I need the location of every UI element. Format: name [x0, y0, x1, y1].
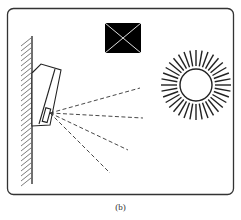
sun-icon: [161, 50, 231, 120]
figure-caption: (b): [0, 202, 241, 212]
wall-hatching: [21, 38, 31, 186]
diagram-canvas: [0, 0, 241, 220]
obstacle-x-icon: [105, 23, 141, 53]
light-beams: [50, 88, 143, 173]
sensor-device-icon: [32, 64, 61, 126]
